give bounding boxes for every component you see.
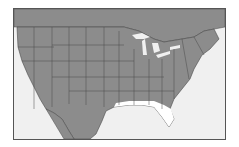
us-map: [14, 9, 225, 139]
map-frame: [13, 8, 226, 140]
